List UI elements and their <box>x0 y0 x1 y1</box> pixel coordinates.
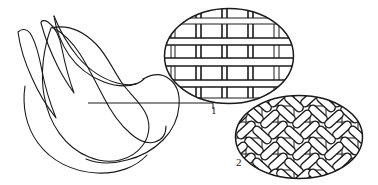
plain-weave-pattern <box>160 5 300 108</box>
callout-leader-group <box>88 100 213 109</box>
figure-canvas: 1 <box>0 0 378 185</box>
bud-right-outline <box>86 75 179 163</box>
tulip-bud-outline <box>18 16 179 173</box>
weft-band <box>160 38 300 45</box>
twill-float <box>347 157 369 178</box>
twill-float <box>347 93 369 114</box>
weft-band <box>160 58 300 66</box>
figure-root: 1 <box>0 0 378 185</box>
weft-band <box>160 18 300 24</box>
bud-main-petal <box>42 27 148 161</box>
detail-1-label: 1 <box>211 104 217 116</box>
bud-tip-leaf-inner <box>54 16 136 86</box>
detail-twill-weave: 2 <box>227 88 369 185</box>
twill-weave-pattern <box>227 88 369 185</box>
detail-2-label: 2 <box>236 156 242 168</box>
